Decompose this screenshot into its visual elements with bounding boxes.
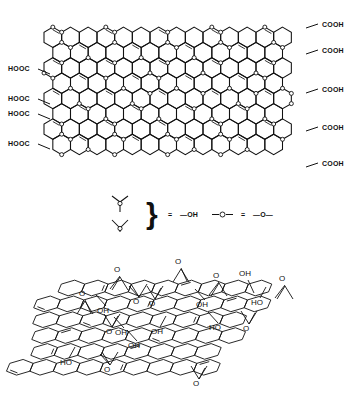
sheet-hexagon: [194, 359, 221, 375]
oxygen-atom-circle: [69, 86, 73, 90]
oxygen-atom-circle: [254, 91, 258, 95]
oxygen-atom-circle: [113, 132, 117, 136]
oxygen-atom-circle: [210, 117, 214, 121]
sheet-hexagon: [78, 344, 105, 360]
oxygen-atom-circle: [166, 132, 170, 136]
sheet-group-label-15: O: [243, 324, 249, 333]
sheet-group-label-9: HO: [251, 298, 263, 307]
sheet-group-label-8: OH: [196, 300, 208, 309]
oxygen-atom-circle: [192, 56, 196, 60]
oxygen-atom-circle: [263, 76, 267, 80]
graphite-oxide-figure: HOOCHOOCHOOCHOOC COOHCOOHCOOHCOOHCOOH } …: [0, 0, 360, 401]
functional-group-bond: [96, 295, 106, 306]
sheet-double-bond: [10, 370, 17, 373]
sheet-hexagon: [33, 312, 60, 328]
oxygen-atom-circle: [228, 86, 232, 90]
top-left-carboxyl-labels: HOOCHOOCHOOCHOOC: [8, 65, 30, 147]
lattice-hexagon: [88, 134, 106, 154]
oxygen-atom-circle: [281, 137, 285, 141]
oxygen-atom-circle: [236, 102, 240, 106]
sheet-hexagon: [34, 296, 61, 312]
sheet-hexagon: [195, 344, 222, 360]
sheet-hexagon: [221, 296, 248, 312]
sheet-group-label-0: O: [114, 265, 120, 274]
sheet-hexagon: [105, 280, 132, 296]
sheet-hexagon: [123, 359, 150, 375]
carboxyl-bond-right: [306, 24, 318, 28]
oxygen-atom-circle: [104, 117, 108, 121]
oxygen-atom-circle: [219, 40, 223, 44]
sheet-group-label-16: OH: [128, 341, 140, 350]
oxygen-atom-circle: [228, 137, 232, 141]
sheet-group-label-6: O: [133, 297, 139, 306]
oxygen-atom-circle: [272, 40, 276, 44]
sheet-hexagon: [55, 328, 82, 344]
oxygen-atom-circle: [148, 71, 152, 75]
sheet-group-label-4: O: [279, 274, 285, 283]
figure-canvas: HOOCHOOCHOOCHOOC COOHCOOHCOOHCOOHCOOH } …: [0, 0, 360, 401]
sheet-hexagon: [150, 312, 177, 328]
oxygen-atom-circle: [281, 86, 285, 90]
lattice-hexagon: [106, 134, 124, 154]
oxygen-atom-circle: [60, 40, 64, 44]
legend-hydroxyl-label: —OH: [180, 211, 198, 218]
sheet-hexagon: [171, 344, 198, 360]
sheet-double-bond: [83, 323, 90, 326]
carboxyl-bond-left: [38, 114, 50, 119]
oxygen-atom-circle: [157, 76, 161, 80]
functional-group-bond: [127, 330, 137, 341]
sheet-hexagon: [81, 280, 108, 296]
oxygen-atom-circle: [219, 61, 223, 65]
oxygen-atom-circle: [157, 117, 161, 121]
lattice-hexagon: [247, 134, 265, 154]
sheet-hexagon: [148, 344, 175, 360]
bottom-structure-sheet: [6, 268, 293, 379]
lattice-hexagon: [53, 134, 71, 154]
sheet-double-bond: [51, 349, 53, 355]
sheet-hexagon: [30, 359, 57, 375]
oxygen-atom-circle: [245, 148, 249, 152]
oxygen-atom-circle: [113, 122, 117, 126]
carboxyl-bond-right: [306, 89, 318, 93]
y-down-with-circle-icon: [112, 220, 128, 232]
oxygen-atom-circle: [263, 117, 267, 121]
oxygen-atom-circle: [272, 122, 276, 126]
carboxyl-bond-right: [306, 50, 318, 54]
sheet-hexagon: [172, 328, 199, 344]
functional-group-bond: [110, 276, 120, 289]
oxygen-atom-circle: [69, 137, 73, 141]
sheet-hexagon: [126, 312, 153, 328]
sheet-double-bond: [102, 285, 104, 291]
carboxyl-label-left-3: HOOC: [8, 140, 30, 147]
carboxyl-bond-left: [38, 144, 50, 149]
oxygen-atom-circle: [219, 122, 223, 126]
bottom-sheet-group-labels: OOOOHOOOOOHHOOHOOHOHHOOOHHOOO: [60, 257, 285, 388]
sheet-group-label-3: OH: [239, 269, 251, 278]
sheet-group-label-19: O: [193, 379, 199, 388]
sheet-hexagon: [32, 328, 59, 344]
carboxyl-label-right-0: COOH: [322, 21, 344, 28]
sheet-hexagon: [31, 344, 58, 360]
oxygen-atom-circle: [219, 132, 223, 136]
lattice-hexagon: [141, 134, 159, 154]
oxygen-atom-circle: [113, 61, 117, 65]
oxygen-atom-circle: [175, 86, 179, 90]
oxygen-atom-circle: [175, 46, 179, 50]
sheet-hexagon: [147, 359, 174, 375]
sheet-double-bond: [152, 338, 159, 341]
oxygen-atom-circle: [113, 153, 117, 157]
oxygen-atom-circle: [245, 107, 249, 111]
top-structure-lattice: [38, 24, 318, 167]
sheet-group-label-7: O: [149, 299, 155, 308]
oxygen-atom-circle: [51, 25, 55, 29]
oxygen-atom-circle: [166, 40, 170, 44]
legend-ether-label: —O—: [253, 211, 273, 218]
sheet-group-label-10: OH: [97, 306, 109, 315]
oxygen-atom-circle: [139, 107, 143, 111]
oxygen-atom-circle: [86, 56, 90, 60]
sheet-group-label-17: HO: [60, 358, 72, 367]
oxygen-atom-circle: [122, 137, 126, 141]
y-up-with-circle-icon: [112, 196, 128, 212]
circle-in-bond-icon: [212, 212, 233, 217]
sheet-hexagon: [79, 328, 106, 344]
